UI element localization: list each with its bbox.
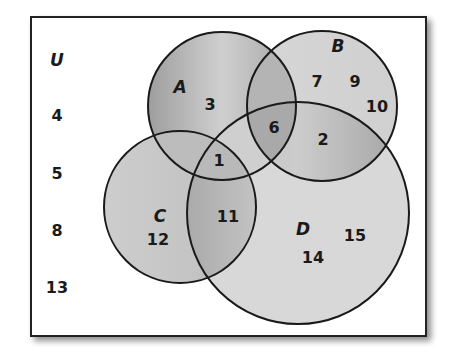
outside-element: 4 [51, 106, 62, 125]
set-a-label: A [171, 77, 186, 97]
element-b-only: 9 [349, 72, 360, 91]
element-a-b-d: 6 [268, 118, 279, 137]
outside-element: 13 [46, 278, 68, 297]
outside-element: 5 [51, 164, 62, 183]
element-d-only: 15 [344, 226, 366, 245]
element-b-only: 10 [366, 97, 388, 116]
set-c-label: C [154, 206, 167, 226]
set-d-label: D [296, 219, 310, 239]
outside-element: 8 [51, 221, 62, 240]
element-a-only: 3 [204, 95, 215, 114]
element-b-d: 2 [317, 130, 328, 149]
venn-diagram: U 4 5 8 13 A B C D 3 7 9 10 6 2 1 11 12 … [0, 0, 453, 355]
element-c-d: 11 [217, 207, 239, 226]
universe-label: U [50, 50, 64, 70]
element-b-only: 7 [311, 72, 322, 91]
element-a-c-d: 1 [213, 151, 224, 170]
set-b-label: B [332, 36, 345, 56]
element-c-only: 12 [147, 230, 169, 249]
element-d-only: 14 [302, 248, 324, 267]
